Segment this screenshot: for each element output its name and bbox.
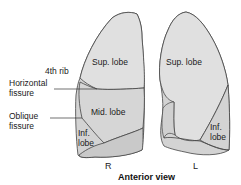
left-inferior-lobe-label-line2: lobe — [210, 132, 226, 142]
lungs-diagram — [0, 0, 241, 185]
right-inferior-lobe-label-line1: Inf. — [78, 128, 90, 138]
right-inferior-lobe-label-line2: lobe — [78, 138, 94, 148]
left-superior-lobe-label: Sup. lobe — [166, 57, 202, 67]
oblique-fissure-label-line2: fissure — [9, 121, 34, 131]
left-side-label: L — [193, 161, 198, 171]
left-inferior-lobe-label-line1: Inf. — [210, 122, 222, 132]
fourth-rib-label: 4th rib — [45, 66, 69, 76]
right-superior-lobe-label: Sup. lobe — [92, 57, 128, 67]
right-side-label: R — [105, 161, 112, 171]
left-lingula-region — [162, 102, 175, 138]
oblique-fissure-label-line1: Oblique — [9, 111, 38, 121]
right-superior-lobe — [80, 12, 144, 89]
horizontal-fissure-label-line2: fissure — [9, 88, 34, 98]
horizontal-fissure-label-line1: Horizontal — [9, 78, 47, 88]
diagram-caption: Anterior view — [118, 172, 175, 182]
right-middle-lobe-label: Mid. lobe — [91, 107, 126, 117]
